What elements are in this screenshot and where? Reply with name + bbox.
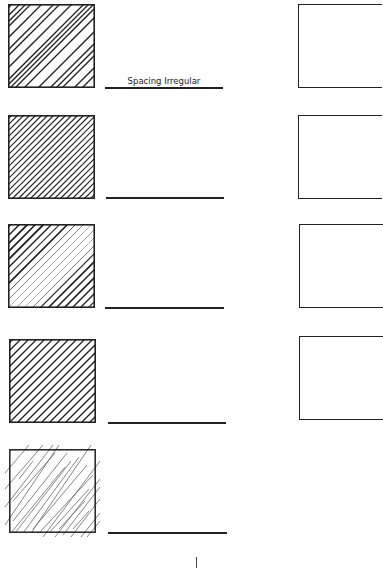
practice-box-1	[298, 4, 382, 88]
answer-line-1	[105, 87, 223, 89]
answer-line-3	[105, 307, 224, 309]
hatch-pattern-icon	[9, 449, 96, 533]
hatch-sample-dense-uniform	[8, 115, 95, 199]
line-label-spacing-irregular: Spacing Irregular	[105, 76, 223, 86]
hatch-sample-varying-weight	[8, 224, 95, 308]
hatch-pattern-icon	[9, 339, 96, 423]
practice-box-2	[298, 115, 382, 199]
answer-line-2	[106, 197, 224, 199]
hatch-sample-light-overrun	[9, 449, 96, 533]
hatch-pattern-icon	[8, 115, 95, 199]
answer-line-5	[108, 532, 227, 534]
practice-box-4	[299, 336, 383, 420]
hatch-pattern-icon	[8, 224, 95, 308]
practice-box-3	[299, 224, 383, 308]
hatch-sample-irregular-spacing	[8, 4, 95, 88]
hatch-sample-uniform-medium	[9, 339, 96, 423]
page-mark	[196, 557, 197, 568]
answer-line-4	[108, 422, 226, 424]
hatch-pattern-icon	[8, 4, 95, 88]
